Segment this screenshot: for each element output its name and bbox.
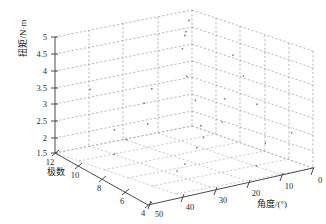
- data-point: [194, 100, 196, 102]
- left-wall-grid: [55, 10, 192, 153]
- data-point: [184, 35, 186, 37]
- x-axis-label: 角度/(°): [257, 198, 287, 209]
- x-tick-label: 50: [155, 209, 164, 219]
- data-point: [221, 121, 223, 123]
- x-tick-labels: 50 40 30 20 10 0: [155, 175, 322, 219]
- data-point: [224, 98, 226, 100]
- data-point: [89, 88, 91, 90]
- data-point: [147, 123, 149, 125]
- y-tick-label: 10: [71, 170, 80, 180]
- data-point: [196, 147, 198, 149]
- x-tick-label: 10: [285, 181, 294, 191]
- z-tick-label: 2.5: [36, 116, 47, 126]
- data-point: [243, 75, 245, 77]
- y-axis-label: 极数: [47, 166, 65, 177]
- data-point: [143, 102, 145, 104]
- axes-lines: [55, 37, 313, 205]
- data-point: [182, 48, 184, 50]
- right-wall-grid: [192, 10, 313, 168]
- z-tick-label: 4: [43, 66, 48, 76]
- data-point: [151, 88, 153, 90]
- y-axis-line: [55, 153, 148, 205]
- y-tick-label: 4: [141, 208, 146, 218]
- floor-grid: [55, 126, 313, 194]
- x-tick-label: 30: [219, 195, 228, 205]
- data-point: [264, 142, 266, 144]
- data-point: [203, 136, 205, 138]
- data-points-layer: [89, 20, 292, 172]
- data-point: [232, 54, 234, 56]
- y-tick-label: 12: [46, 157, 55, 167]
- data-point: [186, 75, 188, 77]
- data-point: [188, 20, 190, 22]
- z-tick-label: 3: [43, 99, 47, 109]
- y-tick-label: 6: [120, 196, 124, 206]
- z-tick-label: 5: [43, 32, 47, 42]
- data-point: [291, 132, 293, 134]
- data-point: [256, 103, 258, 105]
- plot-canvas: 5 4.5 4 3.5 3 2.5 2 1.5 12 10 8 6 4 50 4…: [0, 0, 326, 224]
- data-point: [176, 170, 178, 172]
- data-point: [113, 153, 115, 155]
- x-tick-label: 20: [252, 188, 261, 198]
- x-tick-label: 0: [318, 175, 322, 185]
- z-tick-label: 3.5: [36, 83, 47, 93]
- z-axis-label: 扭矩/N·m: [17, 20, 28, 57]
- z-tick-label: 4.5: [36, 49, 47, 59]
- data-point: [256, 165, 258, 167]
- figure-3d-scatter-plot: 5 4.5 4 3.5 3 2.5 2 1.5 12 10 8 6 4 50 4…: [0, 0, 326, 224]
- x-tick-label: 40: [186, 202, 195, 212]
- data-point: [185, 31, 187, 33]
- data-point: [184, 163, 186, 165]
- y-tick-label: 8: [97, 183, 101, 193]
- z-tick-label: 2: [43, 133, 47, 143]
- data-point: [200, 125, 202, 127]
- data-point: [126, 139, 128, 141]
- data-point: [114, 129, 116, 131]
- z-tick-labels: 5 4.5 4 3.5 3 2.5 2 1.5: [36, 32, 47, 158]
